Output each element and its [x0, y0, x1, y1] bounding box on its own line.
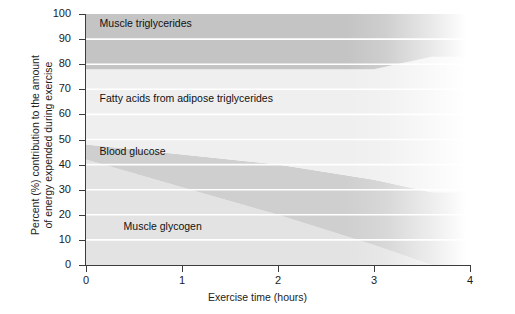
y-tick-label-60: 60	[59, 107, 71, 119]
x-tick-label-3: 3	[371, 274, 377, 286]
y-tick-50	[79, 140, 85, 141]
y-tick-label-0: 0	[65, 258, 71, 270]
x-tick-label-2: 2	[275, 274, 281, 286]
y-tick-30	[79, 190, 85, 191]
y-tick-80	[79, 64, 85, 65]
y-tick-70	[79, 89, 85, 90]
x-tick-label-1: 1	[179, 274, 185, 286]
y-tick-40	[79, 165, 85, 166]
y-tick-label-100: 100	[53, 7, 71, 19]
y-tick-0	[79, 265, 85, 266]
series-label-muscle-glycogen: Muscle glycogen	[124, 220, 202, 232]
y-tick-10	[79, 240, 85, 241]
y-tick-label-50: 50	[59, 133, 71, 145]
y-tick-label-10: 10	[59, 233, 71, 245]
series-label-fatty-acids-from-adipose-triglycerides: Fatty acids from adipose triglycerides	[100, 92, 273, 104]
y-tick-label-80: 80	[59, 57, 71, 69]
y-axis-line	[85, 14, 86, 266]
x-tick-0	[86, 266, 87, 272]
y-tick-label-70: 70	[59, 82, 71, 94]
x-tick-label-0: 0	[83, 274, 89, 286]
series-label-blood-glucose: Blood glucose	[100, 145, 166, 157]
y-axis-tick-labels: 0102030405060708090100	[0, 0, 77, 314]
exercise-fuel-utilization-chart: Percent (%) contribution to the amount o…	[0, 0, 515, 314]
x-tick-1	[182, 266, 183, 272]
y-tick-label-90: 90	[59, 32, 71, 44]
x-axis-title: Exercise time (hours)	[0, 291, 515, 303]
y-tick-label-40: 40	[59, 158, 71, 170]
x-tick-2	[278, 266, 279, 272]
x-tick-3	[374, 266, 375, 272]
y-tick-label-30: 30	[59, 183, 71, 195]
y-tick-20	[79, 215, 85, 216]
y-tick-90	[79, 39, 85, 40]
y-tick-60	[79, 114, 85, 115]
y-tick-100	[79, 14, 85, 15]
y-tick-label-20: 20	[59, 208, 71, 220]
x-tick-4	[470, 266, 471, 272]
x-tick-label-4: 4	[467, 274, 473, 286]
series-label-muscle-triglycerides: Muscle triglycerides	[100, 17, 192, 29]
